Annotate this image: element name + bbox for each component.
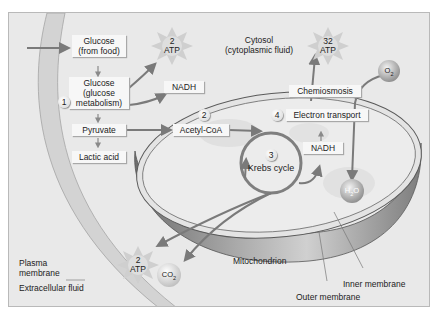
atp-text: ATP	[123, 265, 153, 274]
acetyl-coa-box: Acetyl-CoA	[173, 124, 229, 136]
atp-glycolysis-label: 2 ATP	[157, 37, 187, 55]
cytosol-text: Cytosol	[214, 35, 304, 45]
co2-text: CO	[162, 270, 173, 279]
co2-subscript: 2	[173, 275, 176, 281]
glucose-label: Glucose	[72, 78, 126, 88]
nadh-krebs-box: NADH	[303, 142, 343, 154]
step-1-badge: 1	[58, 96, 70, 108]
metabolism-label: metabolism)	[72, 98, 126, 108]
glucose-label: Glucose	[75, 36, 123, 46]
krebs-cycle-label: Krebs cycle	[237, 163, 305, 173]
cytoplasmic-fluid-text: (cytoplasmic fluid)	[214, 45, 304, 55]
h2o-o-text: O	[353, 186, 359, 195]
plasma-text: Plasma	[19, 258, 60, 268]
step-2-badge: 2	[198, 109, 210, 121]
mitochondrion-label: Mitochondrion	[233, 256, 286, 266]
lactic-acid-box: Lactic acid	[72, 151, 126, 163]
glucose-from-food-box: Glucose (from food)	[72, 35, 126, 57]
pyruvate-box: Pyruvate	[72, 124, 126, 136]
glucose-paren-label: (glucose	[72, 88, 126, 98]
h2o-label: H2O	[340, 180, 364, 205]
atp-krebs-label: 2 ATP	[123, 256, 153, 274]
o2-subscript: 2	[390, 71, 393, 77]
electron-transport-box: Electron transport	[286, 109, 368, 121]
chemiosmosis-box: Chemiosmosis	[289, 85, 361, 97]
atp-text: ATP	[313, 46, 343, 55]
diagram-frame: Glucose (from food) Glucose (glucose met…	[8, 12, 430, 307]
step-4-badge: 4	[271, 109, 283, 121]
atp-electron-transport-label: 32 ATP	[313, 37, 343, 55]
plasma-membrane-label: Plasma membrane	[19, 258, 60, 278]
o2-label: O2	[378, 60, 400, 85]
cytosol-label: Cytosol (cytoplasmic fluid)	[214, 35, 304, 55]
outer-membrane-label: Outer membrane	[296, 292, 360, 302]
glucose-metabolism-box: Glucose (glucose metabolism)	[69, 77, 129, 109]
inner-membrane-label: Inner membrane	[343, 279, 405, 289]
nadh-glycolysis-box: NADH	[164, 81, 204, 93]
step-3-badge: 3	[265, 149, 277, 161]
atp-text: ATP	[157, 46, 187, 55]
membrane-text: membrane	[19, 268, 60, 278]
from-food-label: (from food)	[75, 46, 123, 56]
co2-label: CO2	[157, 264, 181, 289]
extracellular-fluid-label: Extracellular fluid	[19, 283, 84, 293]
